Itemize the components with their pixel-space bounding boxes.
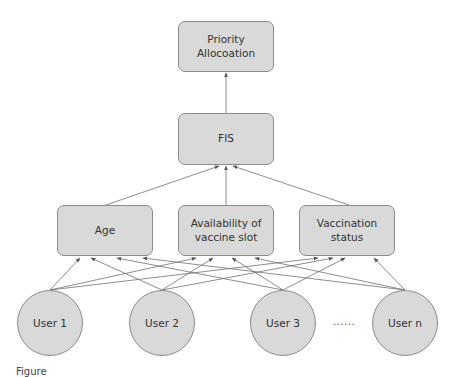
criterion-availability-node: Availability of vaccine slot <box>178 205 274 256</box>
edge-u1-age <box>50 258 80 290</box>
criterion-age-node: Age <box>57 205 153 256</box>
user-1-node: User 1 <box>17 290 83 356</box>
user-1-label: User 1 <box>33 317 67 329</box>
user-3-node: User 3 <box>250 290 316 356</box>
figure-caption: Figure <box>16 366 47 377</box>
criterion-vaccination-status-node: Vaccination status <box>299 205 395 256</box>
edge-un-avail <box>255 258 405 290</box>
fis-label: FIS <box>218 132 234 145</box>
user-n-label: User n <box>388 317 422 329</box>
priority-allocation-node: Priority Allocoation <box>178 21 274 72</box>
user-n-node: User n <box>372 290 438 356</box>
priority-allocation-label: Priority Allocoation <box>181 33 271 59</box>
criterion-availability-label: Availability of vaccine slot <box>181 217 271 243</box>
user-3-label: User 3 <box>266 317 300 329</box>
fis-node: FIS <box>178 113 274 165</box>
edge-un-vacc <box>374 258 405 290</box>
edge-age-fis <box>106 166 219 205</box>
ellipsis: ...... <box>333 316 355 327</box>
criterion-vaccination-status-label: Vaccination status <box>302 217 392 243</box>
edge-u2-age <box>91 258 162 290</box>
edge-u1-avail <box>50 258 196 290</box>
edge-vacc-fis <box>233 166 349 205</box>
user-2-label: User 2 <box>145 317 179 329</box>
criterion-age-label: Age <box>95 224 115 237</box>
user-2-node: User 2 <box>129 290 195 356</box>
edge-u3-vacc <box>283 258 345 290</box>
